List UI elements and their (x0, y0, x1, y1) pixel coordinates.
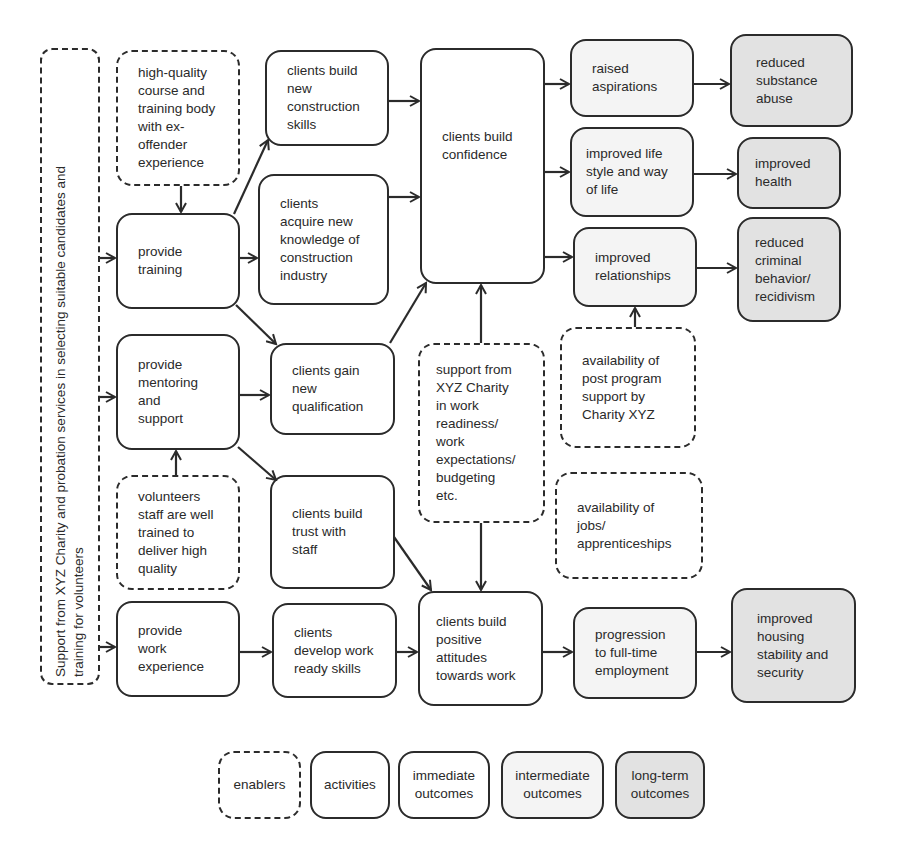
outcome-improved-lifestyle-text: improved life style and way of life (586, 145, 668, 199)
activity-provide-work-experience-text: provide work experience (138, 622, 204, 676)
outcome-construction-skills-text: clients build new construction skills (287, 62, 360, 134)
enabler-high-quality-course-text: high-quality course and training body wi… (138, 64, 215, 172)
legend-activities-text: activities (324, 776, 376, 794)
legend-enablers-text: enablers (234, 776, 286, 794)
legend-immediate-outcomes-text: immediate outcomes (413, 767, 475, 803)
legend-intermediate-outcomes-text: intermediate outcomes (515, 767, 589, 803)
enabler-support-sidebar: Support from XYZ Charity and probation s… (40, 48, 100, 685)
legend-enablers: enablers (218, 751, 301, 819)
legend-longterm-outcomes-text: long-term outcomes (631, 767, 690, 803)
legend-immediate-outcomes: immediate outcomes (398, 751, 490, 819)
outcome-reduced-criminal-behavior: reduced criminal behavior/ recidivism (737, 217, 841, 322)
arrow-trust-to-attitudes (394, 537, 431, 590)
activity-provide-work-experience: provide work experience (116, 601, 240, 697)
outcome-reduced-substance-abuse: reduced substance abuse (730, 34, 853, 127)
enabler-support-work-readiness-text: support from XYZ Charity in work readine… (436, 361, 516, 505)
outcome-improved-lifestyle: improved life style and way of life (570, 127, 694, 217)
outcome-improved-housing-text: improved housing stability and security (757, 610, 828, 682)
enabler-volunteers-trained: volunteers staff are well trained to del… (116, 475, 240, 590)
outcome-build-confidence: clients build confidence (420, 48, 545, 284)
enabler-support-work-readiness: support from XYZ Charity in work readine… (418, 343, 545, 523)
enabler-post-program-support-text: availability of post program support by … (582, 352, 662, 424)
outcome-build-confidence-text: clients build confidence (442, 128, 513, 164)
outcome-trust-with-staff-text: clients build trust with staff (292, 505, 363, 559)
outcome-positive-attitudes-text: clients build positive attitudes towards… (436, 613, 516, 685)
outcome-fulltime-employment: progression to full-time employment (573, 607, 697, 699)
enabler-high-quality-course: high-quality course and training body wi… (116, 50, 240, 186)
outcome-reduced-substance-abuse-text: reduced substance abuse (756, 54, 818, 108)
outcome-improved-housing: improved housing stability and security (731, 588, 856, 703)
activity-provide-mentoring: provide mentoring and support (116, 334, 240, 450)
outcome-work-ready-skills-text: clients develop work ready skills (294, 624, 374, 678)
outcome-positive-attitudes: clients build positive attitudes towards… (418, 591, 543, 706)
enabler-support-sidebar-text: Support from XYZ Charity and probation s… (52, 57, 88, 677)
arrow-training-to-qualification (236, 305, 276, 344)
outcome-raised-aspirations: raised aspirations (570, 39, 694, 117)
arrow-qualification-to-confidence (390, 283, 426, 343)
outcome-new-qualification-text: clients gain new qualification (292, 362, 363, 416)
activity-provide-training-text: provide training (138, 243, 182, 279)
outcome-new-qualification: clients gain new qualification (270, 343, 395, 435)
enabler-jobs-apprenticeships-text: availability of jobs/ apprenticeships (577, 499, 672, 553)
legend-intermediate-outcomes: intermediate outcomes (501, 751, 604, 819)
legend-longterm-outcomes: long-term outcomes (615, 751, 705, 819)
outcome-construction-knowledge: clients acquire new knowledge of constru… (258, 174, 389, 305)
legend-activities: activities (310, 751, 390, 819)
activity-provide-training: provide training (116, 213, 240, 309)
enabler-post-program-support: availability of post program support by … (560, 327, 696, 448)
outcome-improved-relationships: improved relationships (573, 227, 697, 307)
enabler-jobs-apprenticeships: availability of jobs/ apprenticeships (555, 472, 703, 579)
outcome-raised-aspirations-text: raised aspirations (592, 60, 657, 96)
outcome-construction-skills: clients build new construction skills (265, 50, 389, 146)
outcome-improved-health-text: improved health (755, 155, 811, 191)
outcome-trust-with-staff: clients build trust with staff (270, 475, 395, 589)
arrow-mentoring-to-trust (238, 447, 276, 480)
outcome-construction-knowledge-text: clients acquire new knowledge of constru… (280, 195, 360, 285)
outcome-improved-health: improved health (737, 137, 841, 209)
outcome-improved-relationships-text: improved relationships (595, 249, 671, 285)
outcome-fulltime-employment-text: progression to full-time employment (595, 626, 669, 680)
enabler-volunteers-trained-text: volunteers staff are well trained to del… (138, 488, 214, 578)
outcome-work-ready-skills: clients develop work ready skills (272, 603, 397, 698)
outcome-reduced-criminal-behavior-text: reduced criminal behavior/ recidivism (755, 234, 815, 306)
activity-provide-mentoring-text: provide mentoring and support (138, 356, 198, 428)
